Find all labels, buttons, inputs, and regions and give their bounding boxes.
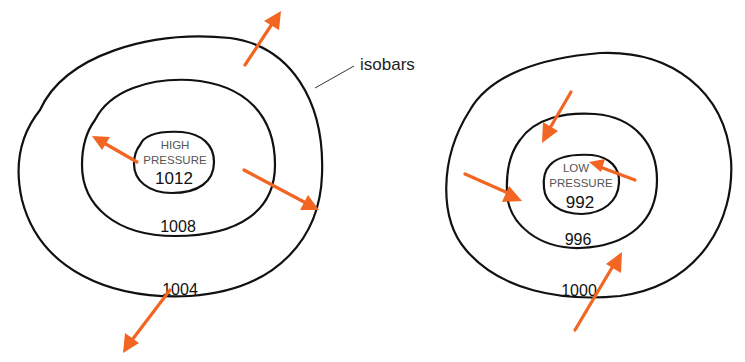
- isobars-callout: isobars: [315, 55, 415, 88]
- wind-arrow-icon: [465, 174, 522, 202]
- high-pressure-title-line2: PRESSURE: [143, 154, 207, 166]
- wind-arrow-icon: [123, 290, 170, 353]
- wind-arrow-icon: [542, 92, 571, 143]
- isobar-1000: [446, 53, 731, 298]
- wind-arrow-icon: [244, 170, 319, 210]
- high-pressure-center-value: 1012: [155, 169, 193, 188]
- callout-leader-line: [315, 66, 354, 88]
- pressure-systems-diagram: HIGH PRESSURE 1012 1008 1004 isobars: [0, 0, 745, 362]
- wind-arrow-icon: [92, 136, 137, 162]
- isobar-1004: [19, 37, 323, 297]
- isobar-label-1000: 1000: [561, 282, 597, 299]
- low-pressure-system: LOW PRESSURE 992 996 1000: [446, 53, 731, 330]
- low-pressure-title-line2: PRESSURE: [549, 177, 613, 189]
- low-pressure-center-value: 992: [566, 193, 594, 212]
- high-pressure-title-line1: HIGH: [161, 139, 190, 151]
- isobar-label-996: 996: [565, 231, 592, 248]
- low-pressure-title-line1: LOW: [563, 162, 589, 174]
- isobars-label: isobars: [360, 55, 415, 74]
- high-pressure-system: HIGH PRESSURE 1012 1008 1004: [19, 11, 323, 353]
- isobar-label-1008: 1008: [160, 218, 196, 235]
